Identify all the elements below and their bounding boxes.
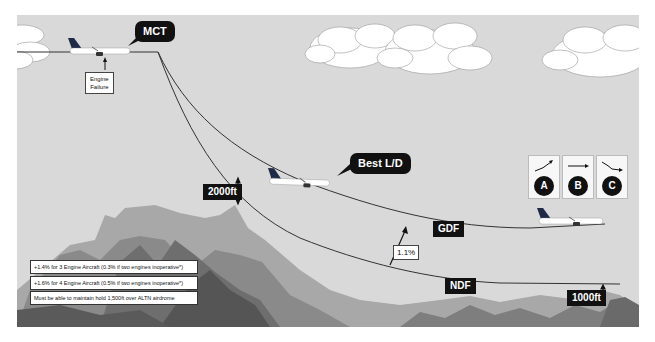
legend-letter-c: C bbox=[602, 176, 622, 196]
note-3-engine: +1.4% for 3 Engine Aircraft (0.3% if two… bbox=[30, 260, 198, 274]
legend-card-a: A bbox=[528, 155, 560, 199]
level-arrow-icon bbox=[563, 156, 593, 176]
clearance-1000ft-label: 1000ft bbox=[567, 290, 606, 306]
engine-failure-line2: Failure bbox=[90, 83, 109, 91]
note-altn-hold: Must be able to maintain hold 1,500ft ov… bbox=[30, 291, 198, 305]
drift-down-diagram: MCT Best L/D Engine Failure 2000ft GDF N… bbox=[0, 0, 655, 342]
ndf-label: NDF bbox=[445, 278, 476, 294]
engine-failure-line1: Engine bbox=[90, 75, 109, 83]
gradient-margin-label: 1.1% bbox=[393, 245, 419, 260]
legend-letter-b: B bbox=[568, 176, 588, 196]
legend-card-b: B bbox=[562, 155, 594, 199]
climb-arrow-icon bbox=[529, 156, 559, 176]
clearance-2000ft-label: 2000ft bbox=[203, 184, 242, 200]
best-ld-callout: Best L/D bbox=[350, 153, 411, 174]
descent-arrow-icon bbox=[597, 156, 627, 176]
engine-failure-label: Engine Failure bbox=[85, 72, 114, 94]
mct-callout: MCT bbox=[135, 21, 175, 42]
gdf-label: GDF bbox=[433, 221, 464, 237]
legend-letter-a: A bbox=[534, 176, 554, 196]
note-4-engine: +1.6% for 4 Engine Aircraft (0.5% if two… bbox=[30, 276, 198, 290]
legend-card-c: C bbox=[596, 155, 628, 199]
